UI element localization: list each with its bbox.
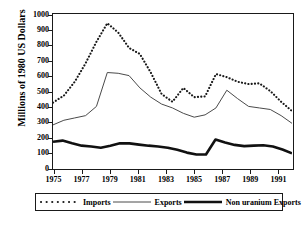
y-axis-tick-label: 0 [23, 165, 49, 173]
x-axis-tick-mark [110, 170, 111, 174]
y-axis-tick-label: 700 [23, 57, 49, 65]
chart-legend: ImportsExportsNon uranium Exports [35, 193, 283, 211]
y-axis-tick-label: 500 [23, 88, 49, 96]
series-line-exports [53, 73, 292, 125]
series-canvas [53, 14, 292, 168]
x-axis-tick-mark [54, 170, 55, 174]
x-axis-tick-mark [138, 170, 139, 174]
y-axis-tick-label: 300 [23, 118, 49, 126]
legend-item-imports[interactable]: Imports [39, 197, 111, 207]
series-line-non-uranium-exports [53, 140, 292, 155]
y-axis-tick-label: 900 [23, 26, 49, 34]
y-axis-tick-label: 400 [23, 103, 49, 111]
legend-swatch-thick-line [182, 197, 224, 207]
legend-label: Exports [155, 198, 182, 207]
x-axis-tick-mark [250, 170, 251, 174]
x-axis-tick-label: 1991 [261, 175, 295, 184]
legend-swatch-thin-line [111, 197, 153, 207]
legend-item-exports[interactable]: Exports [111, 197, 182, 207]
plot-area [52, 13, 294, 170]
legend-item-non-uranium-exports[interactable]: Non uranium Exports [182, 197, 301, 207]
legend-label: Imports [83, 198, 111, 207]
x-axis-tick-mark [278, 170, 279, 174]
y-axis-tick-label: 200 [23, 134, 49, 142]
y-axis-tick-label: 1000 [23, 11, 49, 19]
y-axis-tick-label: 800 [23, 41, 49, 49]
x-axis-tick-mark [166, 170, 167, 174]
x-axis-tick-mark [222, 170, 223, 174]
series-line-imports [53, 23, 292, 111]
legend-label: Non uranium Exports [226, 198, 301, 207]
x-axis-tick-mark [194, 170, 195, 174]
legend-swatch-dotted-line [39, 197, 81, 207]
y-axis-tick-label: 100 [23, 149, 49, 157]
x-axis-tick-mark [82, 170, 83, 174]
y-axis-tick-label: 600 [23, 72, 49, 80]
chart-figure: Millions of 1980 US Dollars 010020030040… [0, 0, 305, 226]
